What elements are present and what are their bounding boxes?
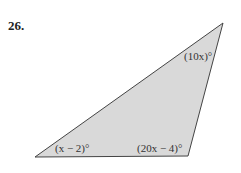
triangle: [35, 23, 223, 157]
triangle-figure: [0, 0, 241, 173]
angle-label-bottom-right: (20x − 4)°: [137, 142, 182, 154]
angle-label-top: (10x)°: [184, 50, 212, 62]
angle-label-bottom-left: (x − 2)°: [55, 142, 89, 154]
